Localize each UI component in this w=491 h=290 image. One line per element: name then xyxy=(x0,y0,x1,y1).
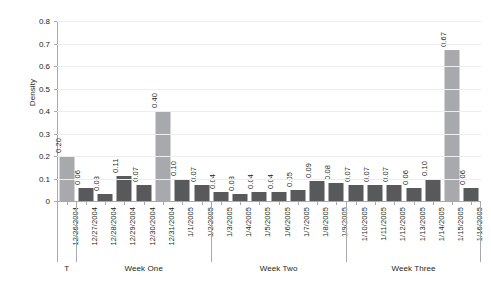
bar[interactable] xyxy=(290,190,305,201)
bar[interactable] xyxy=(387,185,402,201)
bar[interactable] xyxy=(406,188,421,202)
group-label: Week One xyxy=(76,264,211,273)
y-tick-mark xyxy=(54,44,57,45)
bar-value-label: 0.06 xyxy=(458,170,467,185)
y-tick-mark xyxy=(54,21,57,22)
group-label: T xyxy=(57,264,76,273)
y-tick-label: 0.6 xyxy=(22,62,50,71)
bar[interactable] xyxy=(348,185,363,201)
bar-value-label: 0.06 xyxy=(73,170,82,185)
bar[interactable] xyxy=(329,183,344,201)
bar[interactable] xyxy=(194,185,209,201)
bar[interactable] xyxy=(271,192,286,201)
group-label: Week Two xyxy=(211,264,346,273)
x-axis-groups: TWeek OneWeek TwoWeek Three xyxy=(57,202,481,288)
bar-value-label: 0.40 xyxy=(150,93,159,108)
bar-value-label: 0.07 xyxy=(381,167,390,182)
bar-value-label: 0.06 xyxy=(401,170,410,185)
y-tick-mark xyxy=(54,89,57,90)
group-separator xyxy=(480,202,481,262)
y-tick-label: 0.8 xyxy=(22,17,50,26)
gridline xyxy=(57,66,481,67)
gridline xyxy=(57,156,481,157)
y-tick-label: 0.3 xyxy=(22,130,50,139)
group-separator xyxy=(211,202,212,262)
y-tick-mark xyxy=(54,156,57,157)
density-bar-chart: Density 0.200.060.030.110.070.400.100.07… xyxy=(0,0,491,290)
bar[interactable] xyxy=(464,188,479,202)
y-tick-label: 0.1 xyxy=(22,175,50,184)
bar-value-label: 0.67 xyxy=(439,32,448,47)
group-separator xyxy=(346,202,347,262)
y-tick-mark xyxy=(54,111,57,112)
bar-value-label: 0.09 xyxy=(304,163,313,178)
gridline xyxy=(57,89,481,90)
y-tick-mark xyxy=(54,179,57,180)
bar[interactable] xyxy=(117,176,132,201)
bar[interactable] xyxy=(425,179,440,202)
gridline xyxy=(57,44,481,45)
bar-value-label: 0.07 xyxy=(343,167,352,182)
bar-value-label: 0.20 xyxy=(54,138,63,153)
bar[interactable] xyxy=(310,181,325,201)
y-tick-label: 0.4 xyxy=(22,107,50,116)
bar-value-label: 0.04 xyxy=(208,174,217,189)
gridline xyxy=(57,21,481,22)
y-tick-mark xyxy=(54,66,57,67)
bar-value-label: 0.10 xyxy=(169,161,178,176)
group-separator xyxy=(57,202,58,262)
bar[interactable] xyxy=(367,185,382,201)
bar[interactable] xyxy=(175,179,190,202)
bar[interactable] xyxy=(233,194,248,201)
group-separator xyxy=(76,202,77,262)
gridline xyxy=(57,111,481,112)
gridline xyxy=(57,179,481,180)
bar-value-label: 0.04 xyxy=(246,174,255,189)
bar[interactable] xyxy=(213,192,228,201)
bar[interactable] xyxy=(252,192,267,201)
y-tick-label: 0 xyxy=(22,197,50,206)
bar-value-label: 0.10 xyxy=(420,161,429,176)
gridline xyxy=(57,134,481,135)
bar-value-label: 0.04 xyxy=(266,174,275,189)
bar-value-label: 0.07 xyxy=(131,167,140,182)
bar-value-label: 0.07 xyxy=(362,167,371,182)
y-tick-mark xyxy=(54,134,57,135)
bar[interactable] xyxy=(98,194,113,201)
y-tick-label: 0.5 xyxy=(22,85,50,94)
bar[interactable] xyxy=(136,185,151,201)
y-tick-label: 0.7 xyxy=(22,40,50,49)
y-tick-label: 0.2 xyxy=(22,152,50,161)
bar-value-label: 0.11 xyxy=(111,159,120,173)
bar-value-label: 0.07 xyxy=(189,167,198,182)
group-label: Week Three xyxy=(346,264,481,273)
